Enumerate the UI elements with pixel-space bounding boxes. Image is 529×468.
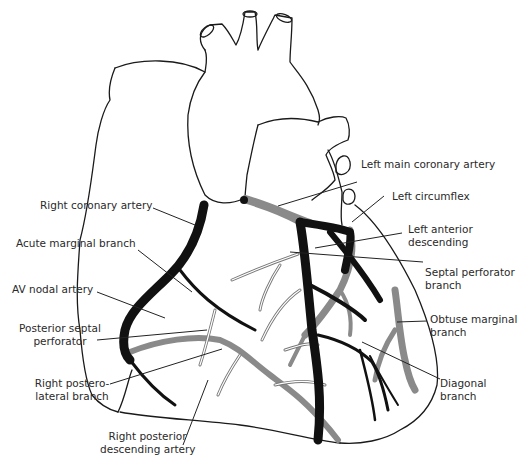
label-septal-perforator-branch: Septal perforator branch [425, 266, 515, 292]
label-left-main-coronary-artery: Left main coronary artery [361, 158, 495, 171]
label-line: branch [440, 390, 487, 403]
label-obtuse-marginal-branch: Obtuse marginal branch [430, 313, 517, 339]
label-right-posterolateral-branch: Right postero- lateral branch [34, 377, 110, 403]
label-acute-marginal-branch: Acute marginal branch [16, 237, 136, 250]
label-line: branch [430, 326, 517, 339]
label-line: Right posterior [100, 430, 195, 443]
label-line: Obtuse marginal [430, 313, 517, 326]
label-diagonal-branch: Diagonal branch [440, 377, 487, 403]
label-right-posterior-descending-artery: Right posterior descending artery [100, 430, 195, 456]
label-line: descending [408, 236, 473, 249]
label-line: perforator [18, 335, 102, 348]
label-line: Posterior septal [18, 322, 102, 335]
heart-outline [77, 11, 437, 443]
left-main-vessel [245, 200, 300, 222]
label-line: branch [425, 279, 515, 292]
label-line: descending artery [100, 443, 195, 456]
label-posterior-septal-perforator: Posterior septal perforator [18, 322, 102, 348]
anterior-vessels [124, 205, 398, 440]
label-left-anterior-descending: Left anterior descending [408, 223, 473, 249]
label-line: lateral branch [34, 390, 110, 403]
label-line: Septal perforator [425, 266, 515, 279]
label-av-nodal-artery: AV nodal artery [12, 283, 93, 296]
label-left-circumflex: Left circumflex [392, 190, 470, 203]
label-line: Diagonal [440, 377, 487, 390]
label-line: Right postero- [34, 377, 110, 390]
label-right-coronary-artery: Right coronary artery [40, 199, 153, 212]
label-line: Left anterior [408, 223, 473, 236]
